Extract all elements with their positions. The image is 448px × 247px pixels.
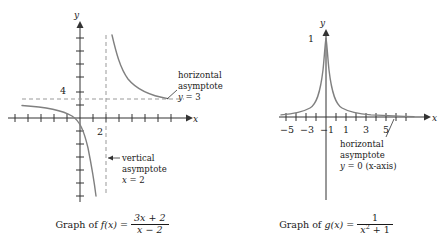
right-caption-denominator: x2 + 1 (357, 224, 393, 236)
right-y-axis-letter: y (319, 18, 326, 28)
left-y-axis (77, 21, 84, 202)
right-ha-line3: y = 0 (x-axis) (340, 161, 397, 172)
right-caption: Graph of g(x) = 1 x2 + 1 (224, 214, 448, 237)
right-ha-line2: asymptote (340, 150, 397, 161)
right-ha-line1: horizontal (340, 139, 397, 150)
left-caption-arg: (x) (104, 219, 117, 230)
left-ha-line3: y = 3 (178, 92, 223, 103)
left-va-line2: asymptote (122, 164, 167, 175)
right-x-axis-letter: x (432, 113, 437, 123)
right-graph-panel: x y 1 −5 −3 −1 1 3 5 horizontal asymptot… (224, 0, 448, 247)
left-x-tick-label: 2 (97, 126, 103, 137)
left-ha-var: y (178, 92, 183, 102)
left-caption-equals: = (120, 219, 128, 230)
right-x-tick-label-neg1: −1 (320, 124, 334, 135)
right-caption-arg: (x) (331, 219, 344, 230)
left-ha-eq: = (186, 92, 193, 102)
right-x-tick-label-1: 1 (343, 124, 349, 135)
left-graph-panel: x y 4 2 horizontal asymptote y = 3 verti… (0, 0, 224, 247)
right-horizontal-asymptote-annotation: horizontal asymptote y = 0 (x-axis) (340, 139, 397, 172)
left-va-val: 2 (139, 175, 144, 185)
left-vertical-asymptote-annotation: vertical asymptote x = 2 (122, 153, 167, 186)
left-vertical-leader (108, 156, 120, 161)
left-caption-prefix: Graph of (55, 219, 97, 230)
right-caption-den-tail: + 1 (370, 224, 390, 235)
left-va-var: x (122, 175, 127, 185)
asymptotes-figure: x y 4 2 horizontal asymptote y = 3 verti… (0, 0, 448, 247)
left-y-tick-label: 4 (60, 85, 66, 96)
left-x-axis-letter: x (193, 114, 198, 124)
right-x-tick-label-neg5: −5 (280, 124, 294, 135)
left-va-line1: vertical (122, 153, 167, 164)
right-y-tick-label: 1 (308, 33, 314, 44)
left-ha-val: 3 (195, 92, 200, 102)
left-horizontal-leader (167, 90, 177, 99)
left-curve-branch-left (22, 106, 96, 197)
right-ha-val: 0 (x-axis) (357, 161, 396, 171)
right-x-tick-label-5: 5 (383, 124, 389, 135)
right-x-tick-label-3: 3 (363, 124, 369, 135)
right-caption-numerator: 1 (357, 213, 393, 224)
left-ha-line1: horizontal (178, 70, 223, 81)
right-curve (281, 38, 414, 117)
left-caption-denominator: x − 2 (131, 224, 168, 236)
right-y-axis (323, 29, 330, 200)
right-ha-eq: = (348, 161, 355, 171)
right-caption-equals: = (346, 219, 354, 230)
right-ha-var: y (340, 161, 345, 171)
left-va-eq: = (130, 175, 137, 185)
right-caption-prefix: Graph of (279, 219, 321, 230)
left-caption-numerator: 3x + 2 (131, 213, 168, 224)
right-caption-fraction: 1 x2 + 1 (357, 213, 393, 236)
left-caption: Graph of f(x) = 3x + 2 x − 2 (0, 214, 224, 237)
left-ha-line2: asymptote (178, 81, 223, 92)
left-curve-branch-right (112, 35, 168, 99)
right-x-tick-label-neg3: −3 (300, 124, 314, 135)
left-caption-fraction: 3x + 2 x − 2 (131, 213, 168, 236)
left-x-axis (8, 115, 193, 122)
left-horizontal-asymptote-annotation: horizontal asymptote y = 3 (178, 70, 223, 103)
left-y-axis-letter: y (73, 10, 80, 20)
right-graph-svg: x y 1 −5 −3 −1 1 3 5 (224, 0, 448, 205)
left-va-line3: x = 2 (122, 175, 167, 186)
